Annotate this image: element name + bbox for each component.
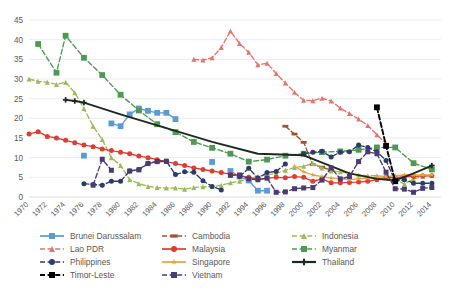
data-point (264, 157, 270, 163)
data-point (265, 176, 270, 181)
data-point (136, 154, 141, 159)
data-point (383, 143, 389, 149)
data-point (81, 181, 86, 186)
data-point (431, 163, 433, 169)
data-point (310, 179, 315, 184)
data-point (420, 186, 425, 191)
data-point (219, 170, 224, 175)
data-point (356, 147, 362, 153)
data-point (384, 158, 389, 163)
chart-container: 051015202530354045 197019721974197619781… (0, 0, 449, 295)
data-point (81, 153, 87, 159)
data-point (49, 259, 55, 265)
data-point (109, 148, 114, 153)
data-point (393, 186, 398, 191)
data-point (356, 143, 361, 148)
data-point (246, 166, 251, 171)
data-point (191, 170, 196, 175)
legend-label: Vietnam (192, 270, 223, 280)
data-point (81, 55, 87, 61)
data-point (329, 180, 334, 185)
data-point (146, 161, 151, 166)
data-point (347, 174, 352, 179)
y-tick-label: 5 (18, 173, 23, 182)
data-point (329, 165, 334, 170)
data-point (392, 178, 398, 184)
data-point (283, 189, 288, 194)
data-point (182, 169, 187, 174)
data-point (429, 185, 434, 190)
data-point (54, 136, 59, 141)
data-point (402, 187, 407, 192)
data-point (319, 178, 324, 183)
data-point (209, 159, 215, 165)
data-point (392, 145, 398, 151)
data-point (171, 246, 177, 252)
legend-label: Lao PDR (70, 244, 104, 254)
data-point (274, 190, 279, 195)
data-point (228, 151, 234, 157)
data-point (209, 145, 215, 151)
data-point (356, 180, 361, 185)
data-point (200, 167, 205, 172)
data-point (292, 174, 297, 179)
data-point (274, 169, 279, 174)
data-point (219, 187, 224, 192)
data-point (365, 149, 370, 154)
data-point (292, 186, 297, 191)
y-tick-label: 25 (14, 95, 24, 104)
data-point (118, 92, 124, 98)
data-point (146, 155, 151, 160)
data-point (356, 159, 361, 164)
data-point (109, 121, 115, 127)
data-point (63, 138, 68, 143)
data-point (420, 181, 425, 186)
data-point (109, 179, 114, 184)
data-point (255, 188, 261, 194)
data-point (282, 125, 288, 128)
data-point (145, 108, 151, 114)
data-point (283, 175, 288, 180)
data-point (265, 170, 270, 175)
y-tick-label: 35 (14, 55, 24, 64)
data-point (49, 233, 55, 239)
data-point (136, 108, 142, 114)
legend-label: Timor-Leste (70, 270, 115, 280)
data-point (163, 110, 169, 116)
data-point (54, 70, 60, 76)
data-point (191, 139, 197, 145)
data-point (429, 181, 434, 186)
data-point (319, 149, 324, 154)
data-point (45, 134, 50, 139)
line-chart: 051015202530354045 197019721974197619781… (0, 0, 449, 295)
data-point (338, 176, 343, 181)
data-point (255, 177, 260, 182)
data-point (83, 100, 85, 106)
data-point (63, 33, 69, 39)
data-point (49, 272, 55, 278)
data-point (36, 129, 41, 134)
data-point (100, 157, 105, 162)
data-point (127, 151, 132, 156)
data-point (338, 150, 343, 155)
data-point (100, 183, 105, 188)
legend-label: Myanmar (322, 244, 357, 254)
data-point (200, 178, 205, 183)
data-point (303, 259, 305, 266)
y-tick-label: 30 (14, 75, 24, 84)
data-point (154, 110, 160, 116)
data-point (191, 165, 196, 170)
data-point (100, 147, 105, 152)
data-point (411, 160, 417, 166)
data-point (118, 150, 123, 155)
data-point (384, 170, 389, 175)
data-point (283, 161, 288, 166)
data-point (136, 167, 141, 172)
data-point (65, 97, 67, 103)
data-point (365, 145, 370, 150)
data-point (72, 140, 77, 145)
data-point (118, 179, 123, 184)
legend-label: Malaysia (192, 244, 225, 254)
data-point (274, 175, 279, 180)
y-tick-label: 40 (14, 36, 24, 45)
